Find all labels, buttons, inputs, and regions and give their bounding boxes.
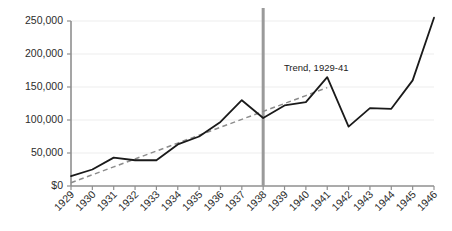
x-axis-tick-label: 1942 — [329, 188, 354, 213]
x-axis-tick-labels: 1929193019311932193319341935193619371938… — [51, 188, 439, 213]
y-axis-tick-label: 200,000 — [25, 47, 63, 59]
x-axis-tick-label: 1940 — [286, 188, 311, 213]
gridlines — [71, 21, 434, 153]
y-axis-tick-label: 150,000 — [25, 80, 63, 92]
x-axis-tick-label: 1929 — [51, 188, 76, 213]
x-axis-tick-label: 1933 — [137, 188, 162, 213]
x-axis-tick-label: 1941 — [308, 188, 333, 213]
chart-container: $050,000100,000150,000200,000250,000 192… — [0, 0, 452, 231]
trend-line-series — [71, 88, 327, 183]
line-chart: $050,000100,000150,000200,000250,000 192… — [0, 0, 452, 231]
x-axis-tick-label: 1932 — [115, 188, 140, 213]
x-axis-tick-label: 1943 — [350, 188, 375, 213]
y-axis-tick-label: 250,000 — [25, 14, 63, 26]
x-axis-tick-label: 1938 — [244, 188, 269, 213]
y-axis-tick-label: $0 — [51, 179, 63, 191]
y-axis-tick-label: 100,000 — [25, 113, 63, 125]
x-axis-tick-label: 1930 — [73, 188, 98, 213]
data-line-series — [71, 18, 434, 176]
trend-label: Trend, 1929-41 — [284, 62, 349, 73]
x-axis-tick-label: 1939 — [265, 188, 290, 213]
x-axis-tick-label: 1936 — [201, 188, 226, 213]
x-axis-tick-label: 1945 — [393, 188, 418, 213]
x-axis-tick-label: 1935 — [180, 188, 205, 213]
x-axis-tick-label: 1934 — [158, 188, 183, 213]
x-axis-tick-label: 1931 — [94, 188, 119, 213]
annotation-group: Trend, 1929-41 — [284, 62, 349, 73]
y-axis-tick-label: 50,000 — [31, 146, 63, 158]
x-axis-tick-label: 1946 — [414, 188, 439, 213]
x-axis-tick-label: 1944 — [372, 188, 397, 213]
y-axis-tick-labels: $050,000100,000150,000200,000250,000 — [25, 14, 63, 191]
x-axis-tick-label: 1937 — [222, 188, 247, 213]
